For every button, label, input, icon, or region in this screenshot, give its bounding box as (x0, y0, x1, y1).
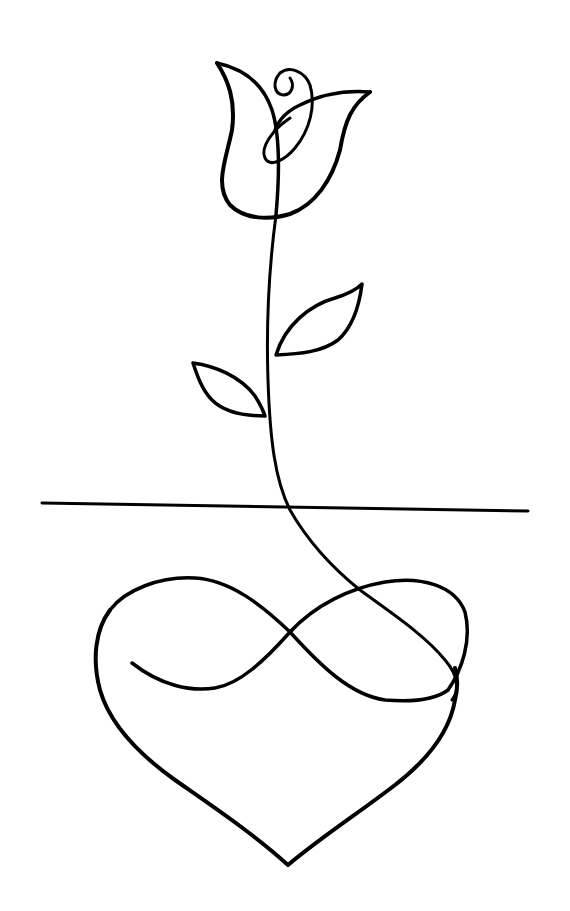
leaf-left (193, 363, 265, 416)
rose-bloom (217, 63, 370, 218)
line-art-canvas (0, 0, 570, 911)
horizon-line (42, 503, 528, 511)
rose-infinity-heart-drawing (0, 0, 570, 911)
leaf-right (276, 284, 362, 355)
infinity-loop (110, 578, 467, 701)
